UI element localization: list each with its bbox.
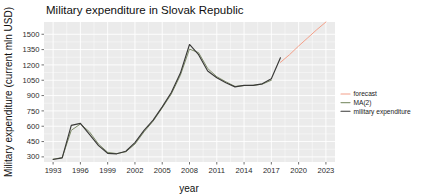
y-tick-label: 1200 [23, 61, 40, 70]
y-tick-label: 1500 [23, 30, 40, 39]
x-axis-title: year [179, 183, 199, 194]
y-tick-label: 300 [27, 152, 40, 161]
x-tick-label: 2011 [209, 166, 225, 175]
x-tick-label: 1993 [45, 166, 62, 175]
y-tick-label: 900 [27, 91, 40, 100]
x-tick-label: 2008 [181, 166, 198, 175]
x-tick-label: 1996 [72, 166, 89, 175]
x-tick-label: 2020 [290, 166, 307, 175]
chart-title: Military expenditure in Slovak Republic [46, 4, 244, 16]
x-tick-label: 2014 [236, 166, 253, 175]
chart-container: 1993199619992002200520082011201420172020… [0, 0, 431, 195]
legend-label-ma-2: MA(2) [354, 99, 372, 107]
y-tick-label: 600 [27, 122, 40, 131]
x-tick-label: 1999 [99, 166, 116, 175]
y-tick-label: 1050 [23, 76, 40, 85]
y-tick-label: 750 [27, 107, 40, 116]
y-tick-label: 450 [27, 137, 40, 146]
x-tick-label: 2023 [317, 166, 334, 175]
x-tick-label: 2005 [154, 166, 171, 175]
x-tick-label: 2002 [126, 166, 143, 175]
legend-label-forecast: forecast [354, 90, 378, 97]
military-expenditure-line-chart: 1993199619992002200520082011201420172020… [0, 0, 431, 195]
legend-label-military-expenditure: military expenditure [354, 108, 412, 116]
y-tick-label: 1350 [23, 45, 40, 54]
x-tick-label: 2017 [263, 166, 280, 175]
y-axis-title: Military expenditure (current mln USD) [3, 7, 14, 177]
